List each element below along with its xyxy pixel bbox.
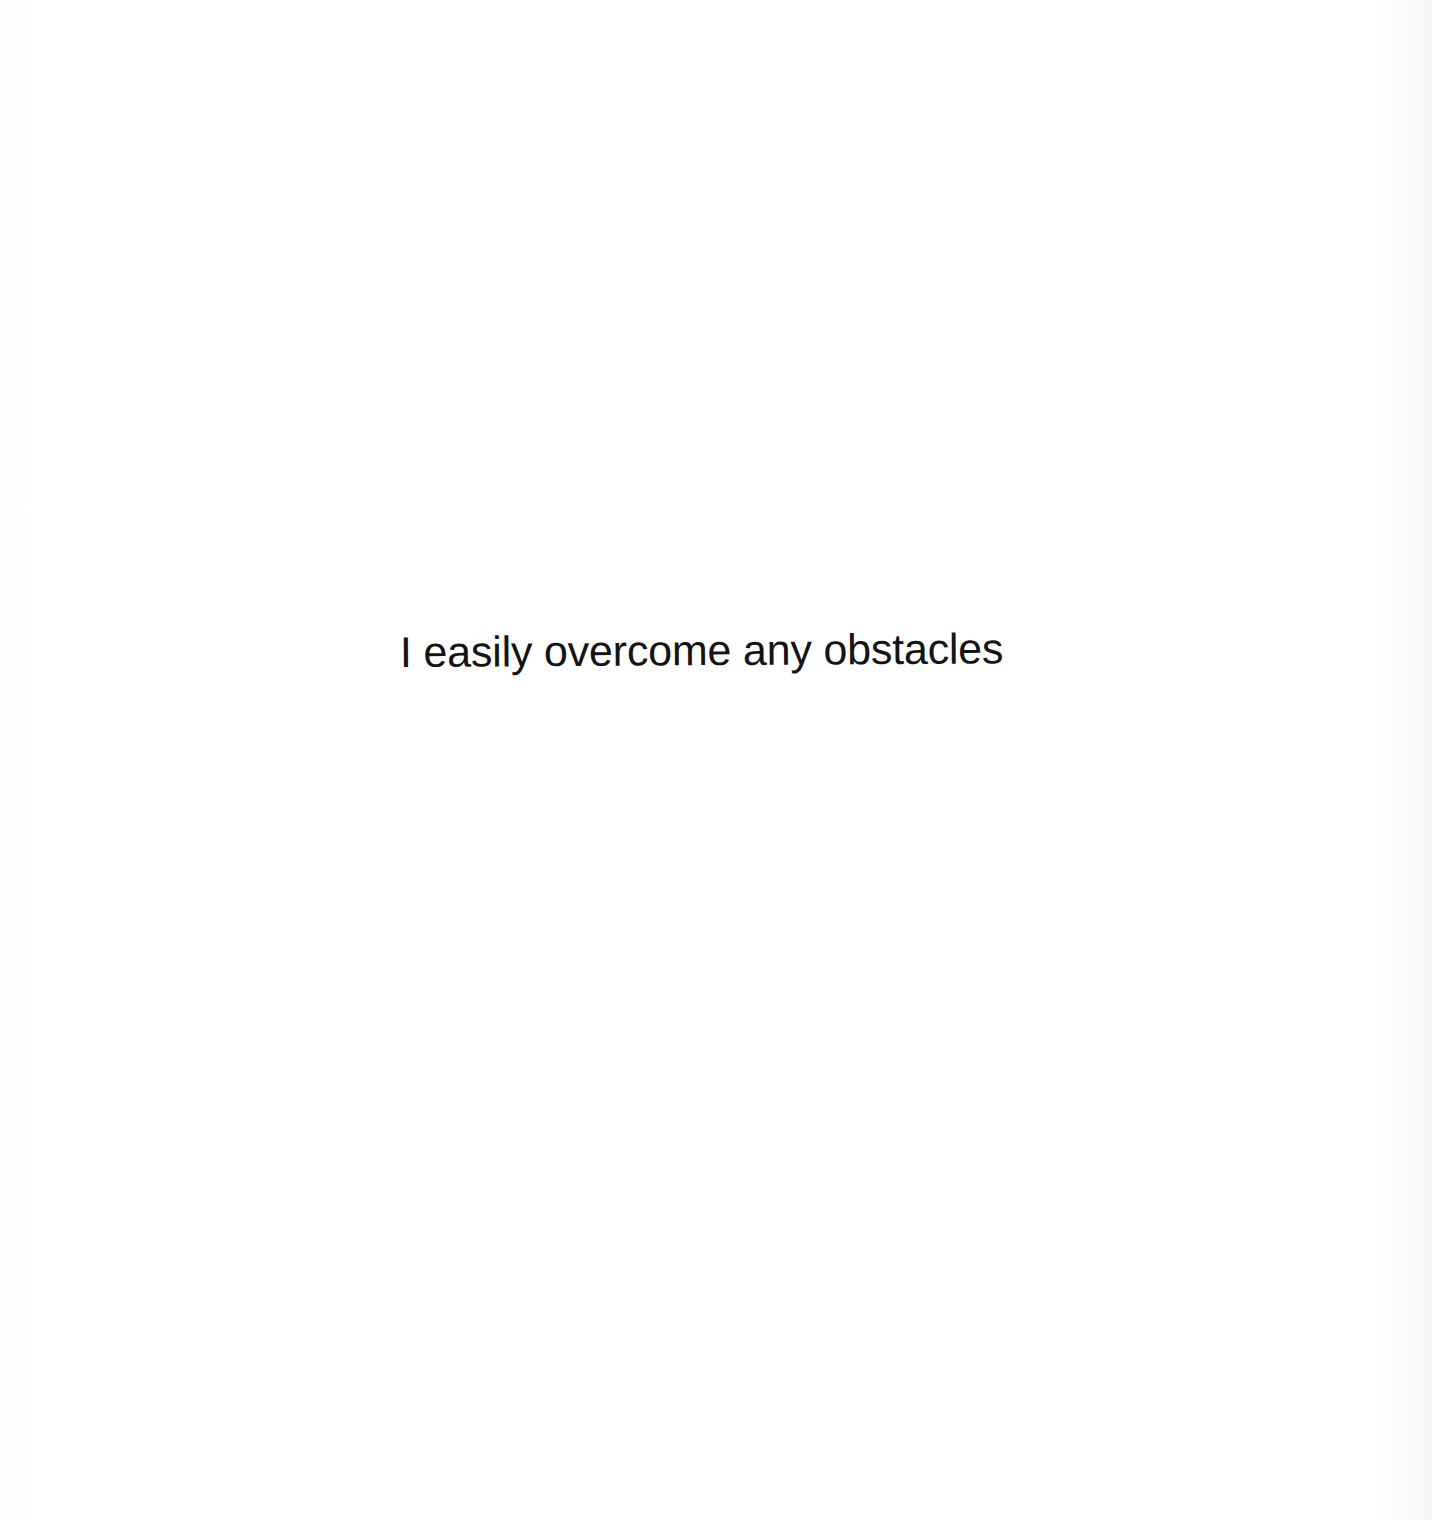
affirmation-text: I easily overcome any obstacles — [400, 622, 1004, 678]
scanned-page: I easily overcome any obstacles — [0, 0, 1432, 1520]
